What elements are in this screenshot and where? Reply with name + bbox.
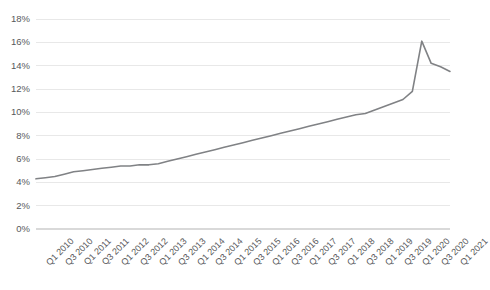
gridlines — [36, 19, 450, 229]
data-series-line — [36, 41, 450, 179]
y-axis-tick-label: 14% — [0, 60, 30, 71]
y-axis-tick-label: 0% — [0, 223, 30, 234]
y-axis-tick-label: 10% — [0, 106, 30, 117]
y-axis-tick-label: 16% — [0, 36, 30, 47]
y-axis-tick-label: 2% — [0, 200, 30, 211]
y-axis-tick-label: 8% — [0, 130, 30, 141]
y-axis-tick-label: 6% — [0, 153, 30, 164]
y-axis-tick-label: 4% — [0, 176, 30, 187]
y-axis-tick-label: 12% — [0, 83, 30, 94]
y-axis-tick-label: 18% — [0, 13, 30, 24]
series-line-path — [36, 41, 450, 179]
